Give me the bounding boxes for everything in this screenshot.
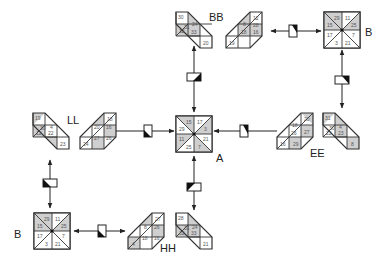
cell-number: 3 [45,241,48,247]
cell-number: 18 [292,122,298,128]
cell-number: 28 [178,215,184,221]
hh-left-piece: 27 8 26 18 16 4 [128,213,164,249]
node-b-bottom: 29 11 25 7 21 3 17 15 [34,213,70,249]
cell-number: 7 [198,144,201,150]
cell-number: 27 [155,216,161,222]
connector-icon [289,25,297,37]
cell-number: 3 [204,126,207,132]
cell-number: 24 [83,141,89,147]
cell-number: 11 [179,136,184,142]
cell-number: 25 [351,22,357,28]
node-label-ee: EE [310,147,325,159]
cell-number: 26 [291,130,297,136]
cell-number: 19 [35,115,41,121]
state-transition-diagram: 15 17 3 21 7 25 11 29 A 29 11 25 7 21 3 … [0,0,390,265]
connector-icon [240,125,248,137]
node-b-top: 29 11 25 7 21 3 17 15 [324,12,360,48]
cell-number: 16 [154,235,160,241]
node-label-ll: LL [67,114,79,126]
node-bb: 30 31 24 32 33 20 12 8 28 [176,11,262,48]
cell-number: 26 [106,135,112,141]
node-label-a: A [216,152,224,164]
connector-icon [335,76,349,84]
cell-number: 31 [184,24,190,30]
cell-number: 20 [94,124,100,130]
cell-number: 21 [345,40,351,46]
cell-number: 17 [37,233,43,239]
cell-number: 24 [192,21,198,27]
node-label-b-top: B [365,26,372,38]
cell-number: 25 [186,144,192,150]
cell-number: 32 [179,230,185,236]
cell-number: 31 [184,225,190,231]
ll-right-piece: 18 20 16 27 26 24 [80,113,116,149]
cell-number: 30 [178,14,184,20]
node-label-b-bottom: B [14,228,21,240]
cell-number: 21 [55,241,61,247]
connector-icon [43,179,57,187]
cell-number: 11 [55,216,60,222]
connector-icon [98,225,106,237]
cell-number: 8 [243,21,246,27]
cell-number: 17 [197,119,203,125]
hh-right-piece: 28 31 24 32 33 21 [176,213,212,249]
cell-number: 21 [203,241,209,247]
cell-number: 18 [107,116,113,122]
connector-icon [187,73,201,81]
node-hh: 27 8 26 18 16 4 28 31 24 32 [128,213,212,254]
cell-number: 15 [37,223,43,229]
cell-number: 29 [334,15,340,21]
node-ee: 20 18 27 26 29 16 31 30 4 22 [277,113,359,159]
cell-number: 22 [326,130,332,136]
cell-number: 19 [229,40,235,46]
cell-number: 20 [304,116,310,122]
cell-number: 8 [144,224,147,230]
cell-number: 25 [61,223,67,229]
cell-number: 29 [44,216,50,222]
cell-number: 8 [351,141,354,147]
cell-number: 27 [94,135,100,141]
cell-number: 29 [179,126,185,132]
cell-number: 21 [203,136,209,142]
cell-number: 33 [191,29,197,35]
cell-number: 26 [154,224,160,230]
cell-number: 16 [106,124,112,130]
cell-number: 11 [345,15,350,21]
ll-left-piece: 19 30 4 12 22 23 [33,113,69,149]
node-label-bb: BB [209,11,224,23]
node-label-hh: HH [160,242,176,254]
cell-number: 29 [293,141,299,147]
cell-number: 12 [36,130,42,136]
cell-number: 33 [191,230,197,236]
cell-number: 18 [241,29,247,35]
cell-number: 20 [203,40,209,46]
bb-right-piece: 12 8 28 18 16 19 [226,12,262,48]
cell-number: 16 [253,29,259,35]
cell-number: 4 [132,241,135,247]
cell-number: 7 [62,233,65,239]
cell-number: 22 [48,130,54,136]
connector-icon [144,125,152,137]
cell-number: 17 [327,32,333,38]
node-a: 15 17 3 21 7 25 11 29 [176,116,212,152]
cell-number: 23 [338,130,344,136]
node-ll: 19 30 4 12 22 23 18 20 16 27 [33,113,116,149]
cell-number: 18 [142,235,148,241]
cell-number: 23 [60,141,66,147]
cell-number: 12 [253,15,259,21]
connector-icon [187,183,201,191]
cell-number: 3 [335,40,338,46]
cell-number: 15 [186,119,192,125]
cell-number: 27 [304,129,310,135]
cell-number: 28 [253,22,259,28]
ee-right-piece: 31 30 4 22 23 8 [323,113,359,149]
cell-number: 32 [179,28,185,34]
cell-number: 31 [325,115,331,121]
cell-number: 7 [352,32,355,38]
ee-left-piece: 20 18 27 26 29 16 [277,113,313,149]
bb-left-piece: 30 31 24 32 33 20 [176,12,212,48]
cell-number: 15 [327,22,333,28]
cell-number: 16 [280,141,286,147]
